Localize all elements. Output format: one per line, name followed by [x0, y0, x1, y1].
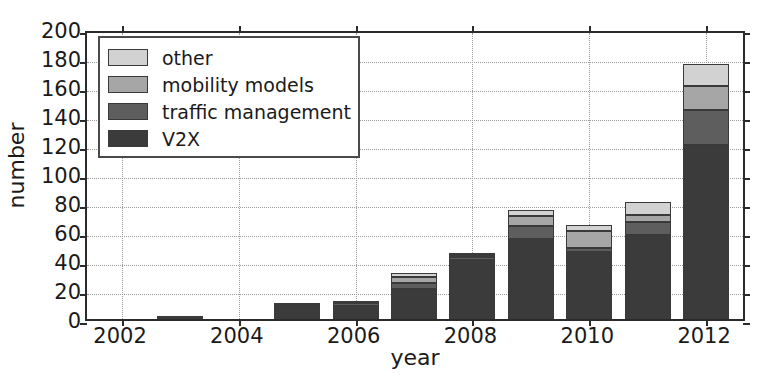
y-axis-label: number	[5, 122, 30, 208]
legend-label: mobility models	[162, 74, 314, 96]
bar-segment-v2x	[274, 307, 320, 319]
bar-2007[interactable]	[391, 273, 437, 319]
y-axis-label-container: number	[0, 0, 34, 330]
x-tick-mark-top	[122, 26, 124, 33]
legend-swatch-icon	[108, 103, 148, 120]
y-tick-label: 100	[35, 164, 81, 188]
bar-segment-v2x	[508, 239, 554, 319]
bar-segment-traffic-management	[274, 305, 320, 308]
y-tick-mark	[80, 33, 87, 35]
bar-2008[interactable]	[449, 254, 495, 319]
x-tick-mark-top	[589, 26, 591, 33]
bar-segment-traffic-management	[683, 110, 729, 145]
x-tick-mark-top	[239, 26, 241, 33]
y-tick-mark-right	[743, 265, 750, 267]
bar-segment-v2x	[157, 316, 203, 319]
y-tick-mark-right	[743, 236, 750, 238]
bar-2010[interactable]	[566, 225, 612, 319]
y-tick-mark-right	[743, 120, 750, 122]
bar-segment-mobility-models	[683, 86, 729, 111]
bar-segment-traffic-management	[333, 303, 379, 306]
bar-segment-v2x	[625, 235, 671, 319]
bar-segment-mobility-models	[625, 215, 671, 222]
bar-segment-traffic-management	[391, 283, 437, 289]
bar-segment-v2x	[391, 289, 437, 319]
bar-segment-other	[391, 273, 437, 277]
bar-2011[interactable]	[625, 202, 671, 319]
x-tick-mark-top	[472, 26, 474, 33]
bar-segment-other	[566, 225, 612, 231]
y-tick-label: 60	[35, 222, 81, 246]
y-tick-label: 120	[35, 135, 81, 159]
y-axis-tick-labels: 020406080100120140160180200	[31, 31, 81, 321]
y-tick-mark	[80, 178, 87, 180]
bar-segment-other	[625, 202, 671, 215]
y-tick-mark-right	[743, 149, 750, 151]
y-tick-mark-right	[743, 178, 750, 180]
chart-legend: othermobility modelstraffic managementV2…	[98, 36, 360, 158]
bar-segment-other	[508, 210, 554, 216]
y-tick-mark	[80, 265, 87, 267]
legend-label: traffic management	[162, 101, 351, 123]
bar-2003[interactable]	[157, 316, 203, 319]
y-tick-label: 180	[35, 48, 81, 72]
bar-2009[interactable]	[508, 210, 554, 319]
legend-row: other	[108, 44, 350, 71]
legend-label: other	[162, 47, 213, 69]
bar-segment-traffic-management	[508, 226, 554, 239]
bar-segment-mobility-models	[391, 277, 437, 283]
bar-segment-other	[449, 253, 495, 255]
y-tick-label: 80	[35, 193, 81, 217]
gridline-horizontal	[87, 178, 743, 179]
legend-label: V2X	[162, 128, 200, 150]
x-tick-mark-top	[706, 26, 708, 33]
y-tick-label: 200	[35, 19, 81, 43]
bar-segment-traffic-management	[625, 222, 671, 235]
x-tick-mark-top	[356, 26, 358, 33]
bar-segment-v2x	[683, 145, 729, 319]
bar-segment-mobility-models	[566, 231, 612, 248]
bar-2005[interactable]	[274, 303, 320, 319]
y-tick-mark-right	[743, 62, 750, 64]
bar-segment-mobility-models	[333, 301, 379, 303]
y-tick-mark	[80, 91, 87, 93]
y-tick-mark-right	[743, 33, 750, 35]
bar-segment-traffic-management	[566, 248, 612, 252]
y-tick-mark	[80, 149, 87, 151]
legend-row: V2X	[108, 125, 350, 152]
legend-swatch-icon	[108, 49, 148, 66]
bar-segment-other	[683, 64, 729, 86]
bar-2012[interactable]	[683, 64, 729, 319]
y-tick-mark	[80, 236, 87, 238]
legend-row: traffic management	[108, 98, 350, 125]
bar-segment-v2x	[566, 252, 612, 319]
y-tick-label: 20	[35, 280, 81, 304]
y-tick-mark	[80, 62, 87, 64]
y-tick-mark	[80, 294, 87, 296]
bar-segment-mobility-models	[508, 216, 554, 226]
bar-segment-mobility-models	[274, 303, 320, 305]
legend-row: mobility models	[108, 71, 350, 98]
legend-swatch-icon	[108, 76, 148, 93]
y-tick-mark	[80, 120, 87, 122]
bar-segment-v2x	[333, 306, 379, 319]
bar-segment-v2x	[449, 260, 495, 319]
y-tick-label: 40	[35, 251, 81, 275]
y-tick-label: 140	[35, 106, 81, 130]
x-axis-label: year	[85, 345, 745, 370]
y-tick-mark	[80, 207, 87, 209]
y-tick-mark-right	[743, 207, 750, 209]
y-tick-label: 160	[35, 77, 81, 101]
y-tick-mark-right	[743, 91, 750, 93]
legend-swatch-icon	[108, 130, 148, 147]
chart-figure: number 020406080100120140160180200 20022…	[0, 0, 767, 380]
bar-2006[interactable]	[333, 302, 379, 319]
bar-segment-traffic-management	[449, 257, 495, 260]
y-tick-mark-right	[743, 294, 750, 296]
